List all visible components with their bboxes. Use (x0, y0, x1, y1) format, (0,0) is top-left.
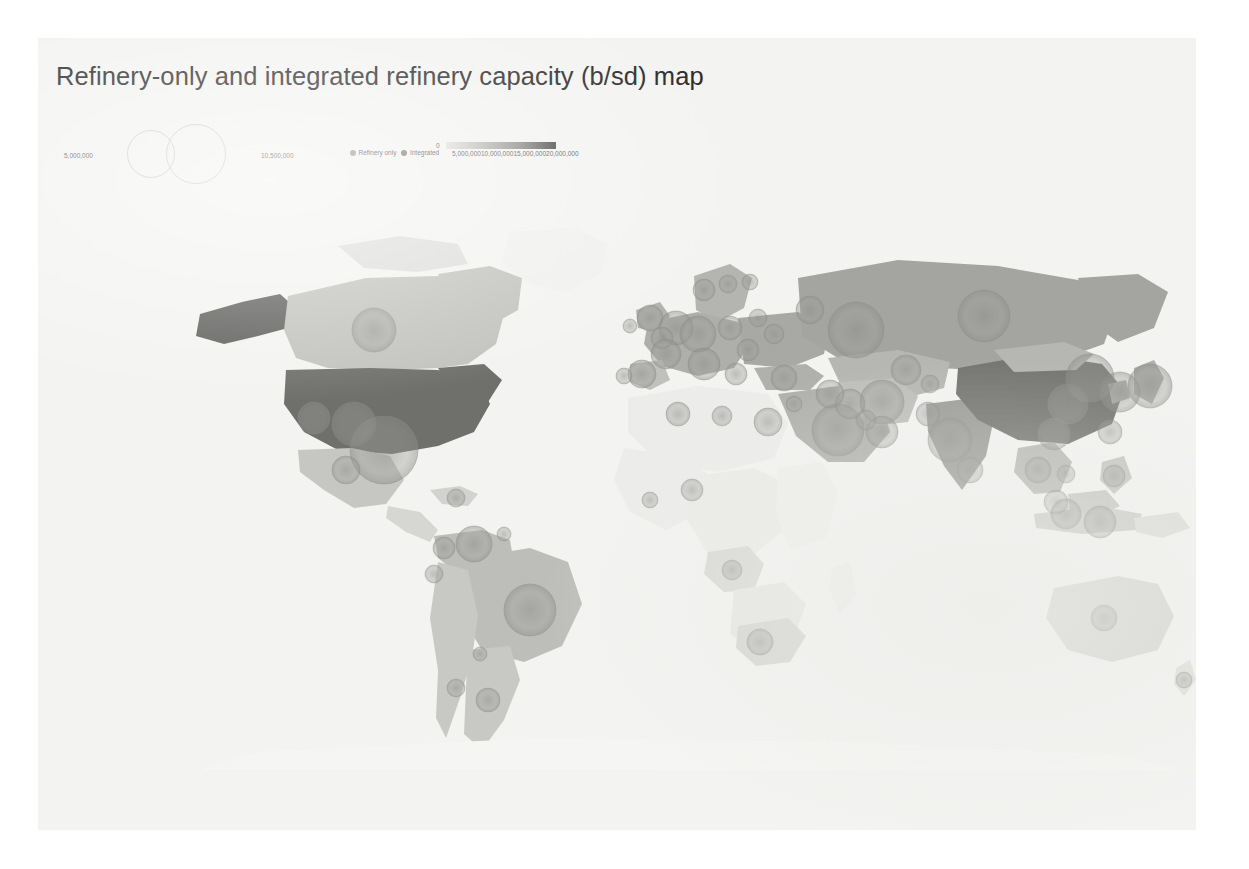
region-central-america (386, 506, 438, 542)
bubble-legend-label-large: 10,500,000 (261, 152, 294, 159)
bubble-vietnam[interactable] (1057, 465, 1075, 483)
bubble-iraq[interactable] (816, 380, 844, 408)
circle-marker-icon (401, 150, 407, 156)
bubble-france[interactable] (651, 339, 681, 369)
bubble-russia-volga[interactable] (828, 302, 884, 358)
bubble-peru[interactable] (473, 647, 487, 661)
bubble-belarus[interactable] (749, 309, 767, 327)
page-title: Refinery-only and integrated refinery ca… (56, 62, 704, 91)
bubble-us-west[interactable] (298, 402, 330, 434)
color-scale-tick: 20,000,000 (546, 150, 579, 157)
color-scale-tick: 10,000,000 (481, 150, 514, 157)
color-scale-tick: 5,000,000 (452, 150, 481, 157)
region-central-africa (686, 468, 788, 558)
bubble-singapore[interactable] (1051, 499, 1081, 529)
bubble-nigeria[interactable] (681, 479, 703, 501)
bubble-trinidad[interactable] (497, 527, 511, 541)
bubble-chile[interactable] (447, 679, 465, 697)
color-scale-ticks: 5,000,000 10,000,000 15,000,000 20,000,0… (452, 150, 570, 157)
bubble-thailand[interactable] (1025, 457, 1051, 483)
bubble-new-zealand[interactable] (1176, 672, 1192, 688)
bubble-india-south[interactable] (957, 457, 983, 483)
bubble-greece[interactable] (725, 363, 747, 385)
bubble-south-africa[interactable] (747, 629, 773, 655)
series-legend: Refinery only Integrated (350, 149, 439, 156)
series-legend-item-refinery-only[interactable]: Refinery only (350, 149, 396, 156)
region-antarctica (198, 738, 1178, 770)
bubble-argentina[interactable] (476, 688, 500, 712)
bubble-angola[interactable] (722, 560, 742, 580)
bubble-india-west[interactable] (928, 418, 972, 462)
bubble-finland[interactable] (742, 274, 758, 290)
bubble-australia[interactable] (1091, 605, 1117, 631)
series-label: Integrated (410, 149, 439, 156)
color-scale-min-label: 0 (436, 142, 440, 149)
bubble-mexico[interactable] (332, 456, 360, 484)
color-scale-legend: 0 5,000,000 10,000,000 15,000,000 20,000… (436, 142, 596, 157)
country-madagascar (830, 562, 856, 614)
color-scale-gradient-bar (446, 142, 556, 149)
bubble-legend-label-small: 5,000,000 (64, 152, 93, 159)
bubble-poland[interactable] (718, 316, 742, 340)
bubble-indonesia[interactable] (1084, 506, 1116, 538)
bubble-norway[interactable] (693, 279, 715, 301)
bubble-philippines[interactable] (1103, 465, 1125, 487)
bubble-caribbean[interactable] (447, 489, 465, 507)
bubble-russia-siberia[interactable] (958, 290, 1010, 342)
bubble-venezuela[interactable] (456, 526, 492, 562)
bubble-us-midwest[interactable] (332, 402, 376, 446)
map-svg (138, 218, 1196, 778)
bubble-brazil[interactable] (504, 584, 556, 636)
bubble-size-legend: 5,000,000 10,500,000 (58, 120, 308, 186)
arctic-islands (338, 236, 468, 272)
world-map[interactable] (138, 218, 1196, 778)
bubble-sweden[interactable] (719, 275, 737, 293)
series-legend-item-integrated[interactable]: Integrated (401, 149, 439, 156)
bubble-qatar[interactable] (856, 410, 876, 430)
bubble-egypt[interactable] (754, 408, 782, 436)
series-label: Refinery only (359, 149, 397, 156)
bubble-ukraine[interactable] (764, 324, 784, 344)
region-new-guinea (1134, 512, 1190, 538)
slide-canvas: Refinery-only and integrated refinery ca… (38, 38, 1196, 830)
bubble-kazakhstan[interactable] (891, 355, 921, 385)
bubble-colombia[interactable] (433, 537, 455, 559)
bubble-taiwan[interactable] (1098, 420, 1122, 444)
country-alaska (196, 294, 298, 344)
bubble-germany[interactable] (680, 316, 716, 352)
bubble-russia-west[interactable] (796, 296, 824, 324)
circle-marker-icon (350, 150, 356, 156)
bubble-turkey[interactable] (771, 365, 797, 391)
bubble-algeria[interactable] (666, 402, 690, 426)
legend: 5,000,000 10,500,000 Refinery only Integ… (58, 120, 578, 186)
region-east-africa (776, 462, 838, 550)
bubble-ecuador[interactable] (425, 565, 443, 583)
bubble-canada[interactable] (352, 308, 396, 352)
bubble-uzbekistan[interactable] (921, 375, 939, 393)
bubble-legend-circle-large (166, 124, 226, 184)
bubble-japan[interactable] (1128, 364, 1172, 408)
bubble-china-south[interactable] (1038, 418, 1070, 450)
bubble-israel[interactable] (786, 396, 802, 412)
bubble-portugal[interactable] (616, 368, 632, 384)
bubble-libya[interactable] (712, 406, 732, 426)
bubble-italy[interactable] (688, 348, 720, 380)
bubble-ireland[interactable] (623, 319, 637, 333)
bubble-romania[interactable] (737, 339, 759, 361)
bubble-ivory-coast[interactable] (642, 492, 658, 508)
color-scale-tick: 15,000,000 (513, 150, 546, 157)
